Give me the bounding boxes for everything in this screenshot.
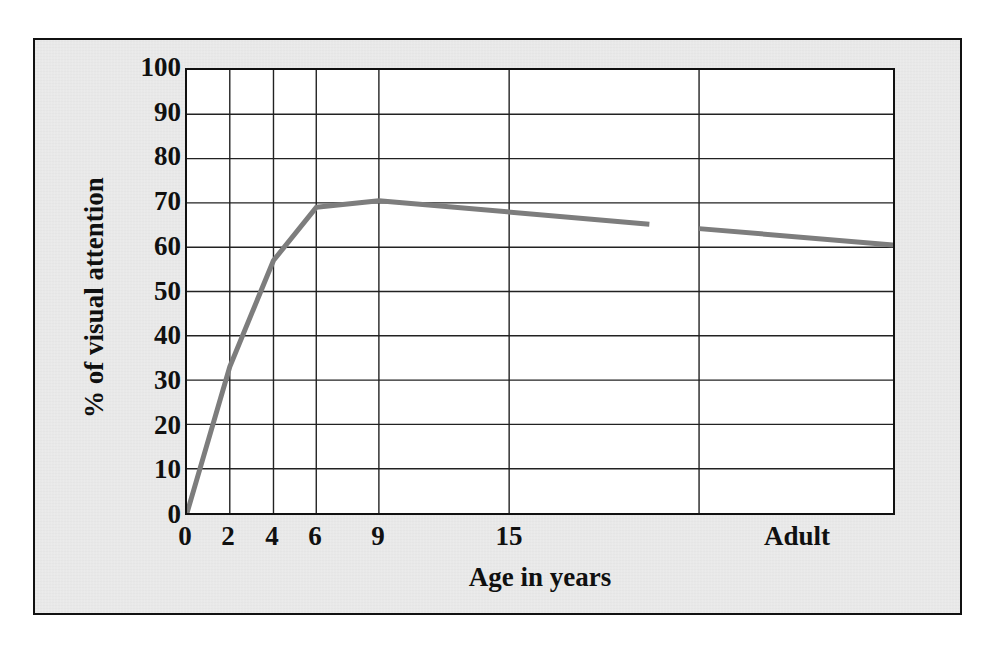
y-axis-tick-label: 30	[135, 367, 181, 394]
y-axis-tick-labels: 0102030405060708090100	[125, 68, 181, 515]
y-axis-tick-label: 40	[135, 322, 181, 349]
x-axis-tick-label: 0	[178, 521, 192, 551]
y-axis-tick-label: 100	[135, 54, 181, 81]
y-axis-tick-label: 80	[135, 143, 181, 170]
x-axis-tick-label: 15	[495, 521, 522, 551]
y-axis-title: % of visual attention	[79, 148, 110, 448]
x-axis-tick-labels: 0246915Adult	[185, 521, 945, 561]
data-line-adult-segment	[699, 229, 893, 245]
y-axis-tick-label: 20	[135, 412, 181, 439]
x-axis-tick-label: 2	[221, 521, 235, 551]
y-axis-tick-label: 50	[135, 278, 181, 305]
x-axis-tick-label: 9	[371, 521, 385, 551]
x-axis-tick-label: 6	[308, 521, 322, 551]
figure-page: 0102030405060708090100 0246915Adult Age …	[0, 0, 996, 647]
chart-canvas	[187, 70, 893, 513]
x-axis-title: Age in years	[185, 562, 895, 593]
y-axis-tick-label: 70	[135, 188, 181, 215]
y-axis-tick-label: 10	[135, 456, 181, 483]
y-axis-tick-label: 0	[135, 501, 181, 528]
x-axis-tick-label: 4	[265, 521, 279, 551]
plot-area	[185, 68, 895, 515]
horizontal-gridlines	[187, 114, 893, 468]
x-axis-tick-label: Adult	[764, 521, 830, 551]
y-axis-tick-label: 90	[135, 99, 181, 126]
y-axis-tick-label: 60	[135, 233, 181, 260]
figure-frame: 0102030405060708090100 0246915Adult Age …	[33, 38, 962, 615]
